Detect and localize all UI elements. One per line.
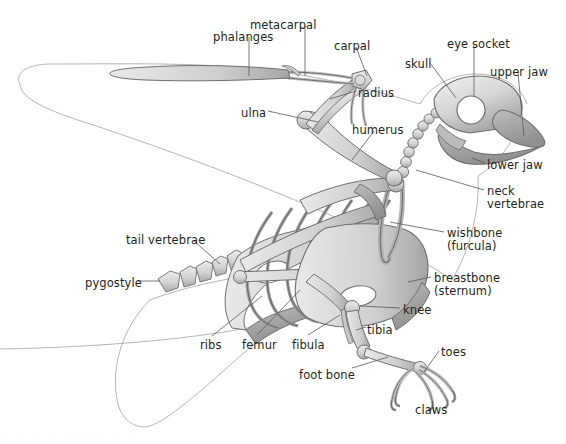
- label-tibia: tibia: [367, 324, 393, 337]
- label-tail-vertebrae: tail vertebrae: [126, 234, 205, 247]
- label-lower-jaw: lower jaw: [487, 159, 543, 172]
- label-humerus: humerus: [352, 124, 404, 137]
- label-fibula: fibula: [292, 339, 325, 352]
- label-metacarpal: metacarpal: [250, 19, 316, 32]
- label-radius: radius: [358, 87, 394, 100]
- skull-bone: [434, 76, 545, 164]
- label-ribs: ribs: [200, 339, 222, 352]
- label-toes: toes: [441, 346, 466, 359]
- label-pygostyle: pygostyle: [85, 277, 142, 290]
- toes-bones: [392, 366, 452, 400]
- label-breastbone-sternum: breastbone (sternum): [434, 272, 500, 298]
- label-carpal: carpal: [334, 40, 370, 53]
- label-femur: femur: [242, 339, 277, 352]
- label-wishbone-furcula: wishbone (furcula): [447, 227, 502, 253]
- label-upper-jaw: upper jaw: [490, 66, 548, 79]
- bird-skeleton-illustration: [0, 0, 566, 444]
- label-claws: claws: [415, 404, 447, 417]
- pygostyle-bone: [158, 271, 180, 292]
- diagram-canvas: phalanges metacarpal carpal skull eye so…: [0, 0, 566, 444]
- phalanges-bone: [110, 66, 290, 81]
- bottom-edge-artifact: . . . . .. . . . .: [0, 432, 566, 444]
- label-skull: skull: [405, 58, 431, 71]
- label-eye-socket: eye socket: [447, 38, 510, 51]
- label-phalanges: phalanges: [213, 31, 273, 44]
- label-ulna: ulna: [241, 107, 266, 120]
- upper-jaw-bone: [493, 110, 545, 147]
- label-neck-vertebrae: neck vertebrae: [487, 185, 544, 211]
- label-foot-bone: foot bone: [299, 369, 355, 382]
- label-knee: knee: [403, 304, 432, 317]
- eye-socket-opening: [457, 96, 485, 124]
